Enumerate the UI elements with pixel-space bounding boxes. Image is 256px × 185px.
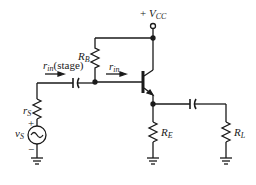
vcc-terminal [151, 24, 156, 29]
minus-sign: − [28, 144, 34, 155]
circuit-schematic [0, 0, 256, 185]
rin-label: rin [109, 61, 120, 74]
rl-label: RL [234, 127, 245, 140]
sine-icon [31, 133, 43, 138]
rb-resistor [91, 38, 99, 82]
transistor-collector [144, 70, 153, 76]
circuit-diagram: + VCC RB rin(stage) rin rS + vS − RE RL [0, 0, 256, 185]
re-resistor [149, 122, 157, 142]
rin-stage-label: rin(stage) [43, 60, 83, 73]
vs-label: vS [15, 128, 24, 141]
plus-sign: + [28, 118, 34, 129]
ground-icon [220, 158, 232, 164]
vcc-label: + VCC [140, 8, 166, 21]
rs-resistor [33, 99, 41, 119]
top-junction [151, 36, 155, 40]
rl-resistor [222, 122, 230, 142]
re-label: RE [161, 127, 173, 140]
ground-icon [147, 158, 159, 164]
ground-icon [31, 158, 43, 164]
